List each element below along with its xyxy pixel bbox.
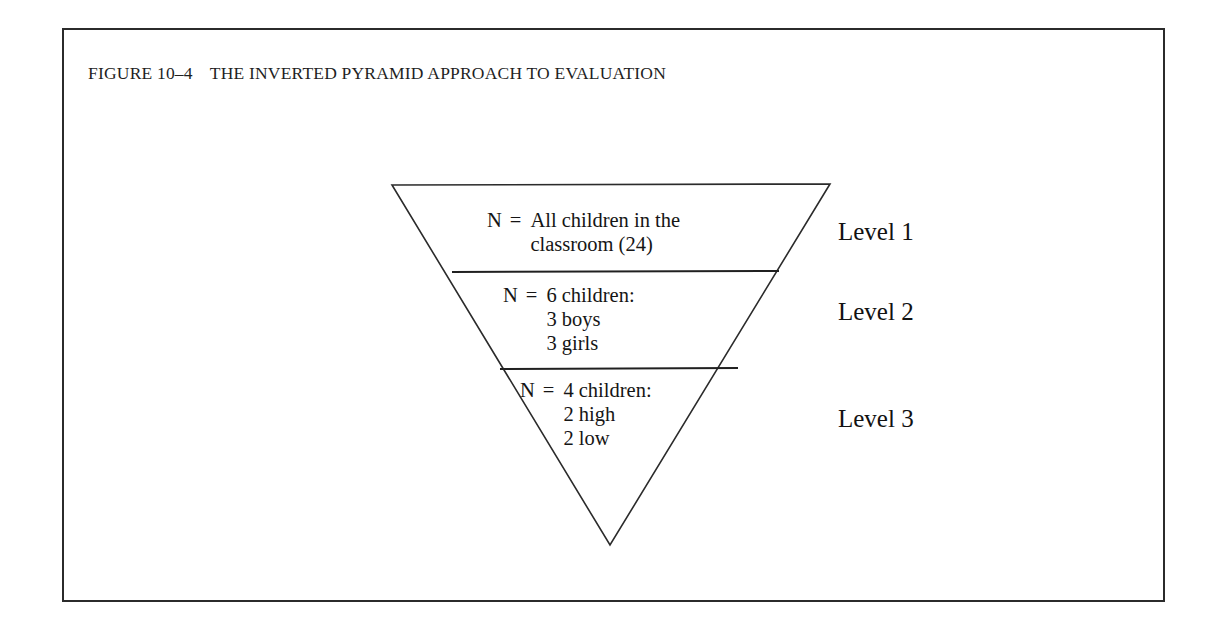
band-2-line-1: 6 children: xyxy=(546,283,634,307)
figure-caption: FIGURE 10–4THE INVERTED PYRAMID APPROACH… xyxy=(88,63,666,84)
band-1-equals: = xyxy=(510,208,522,232)
pyramid-band-1-text: N= All children in the classroom (24) xyxy=(487,208,680,256)
band-3-lead: N xyxy=(520,378,535,402)
band-2-lead: N xyxy=(503,283,518,307)
level-label-2: Level 2 xyxy=(838,298,914,326)
band-1-lead: N xyxy=(487,208,502,232)
band-3-line-2: 2 high xyxy=(563,402,651,426)
pyramid-band-2-text: N= 6 children: 3 boys 3 girls xyxy=(503,283,635,356)
figure-page: FIGURE 10–4THE INVERTED PYRAMID APPROACH… xyxy=(0,0,1228,630)
band-2-line-3: 3 girls xyxy=(546,331,634,355)
band-3-line-1: 4 children: xyxy=(563,378,651,402)
pyramid-band-3-text: N= 4 children: 2 high 2 low xyxy=(520,378,652,451)
band-1-line-1: All children in the xyxy=(530,208,680,232)
band-2-line-2: 3 boys xyxy=(546,307,634,331)
band-3-line-3: 2 low xyxy=(563,426,651,450)
figure-number: FIGURE 10–4 xyxy=(88,63,193,83)
band-2-equals: = xyxy=(526,283,538,307)
level-label-1: Level 1 xyxy=(838,218,914,246)
band-1-line-2: classroom (24) xyxy=(530,232,680,256)
level-label-3: Level 3 xyxy=(838,405,914,433)
figure-title: THE INVERTED PYRAMID APPROACH TO EVALUAT… xyxy=(210,63,666,83)
band-3-equals: = xyxy=(543,378,555,402)
